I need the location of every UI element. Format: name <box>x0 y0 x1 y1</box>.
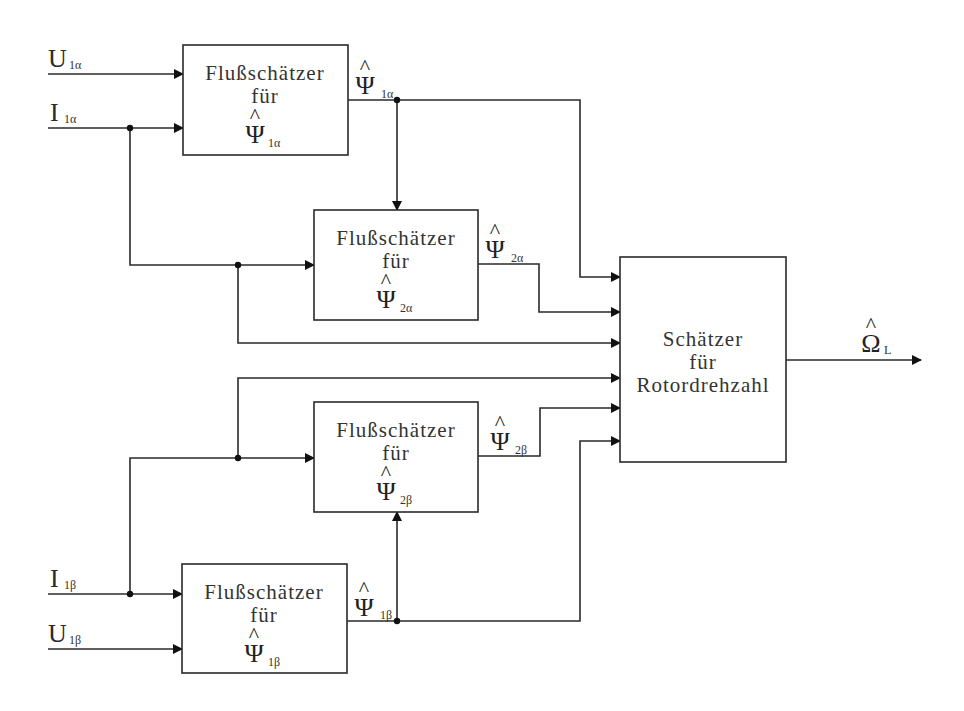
psi-symbol: Ψ <box>244 639 264 668</box>
junction-dot <box>127 125 133 131</box>
svg-text:1α: 1α <box>69 58 82 72</box>
junction-dot <box>127 591 133 597</box>
signal-label-psi1b: ^ Ψ 1β <box>354 576 392 622</box>
subscript: 1β <box>268 655 280 669</box>
psi-symbol: Ψ <box>245 120 265 149</box>
svg-text:Ψ: Ψ <box>490 427 510 456</box>
svg-text:2α: 2α <box>511 251 524 265</box>
svg-text:Ψ: Ψ <box>485 235 505 264</box>
input-label-i1a: I 1α <box>50 98 77 127</box>
svg-text:L: L <box>884 343 891 357</box>
subscript: 2β <box>400 493 412 507</box>
svg-text:1α: 1α <box>381 87 394 101</box>
signal-label-psi1a: ^ Ψ 1α <box>355 54 394 101</box>
junction-dot <box>394 97 400 103</box>
svg-text:U: U <box>48 44 67 73</box>
svg-text:Ψ: Ψ <box>354 593 374 622</box>
svg-text:U: U <box>48 619 67 648</box>
block-flux-estimator-2b[interactable]: Flußschätzer für ^ Ψ 2β <box>314 402 478 512</box>
block-flux-estimator-2a[interactable]: Flußschätzer für ^ Ψ 2α <box>314 210 478 320</box>
block-title: Flußschätzer <box>336 418 455 442</box>
block-title: Flußschätzer <box>204 580 323 604</box>
block-flux-estimator-1b[interactable]: Flußschätzer für ^ Ψ 1β <box>182 564 347 673</box>
junctions <box>127 97 400 624</box>
junction-dot <box>394 618 400 624</box>
input-label-i1b: I 1β <box>50 564 76 593</box>
subscript: 1α <box>268 136 281 150</box>
block-rotor-speed-estimator[interactable]: Schätzer für Rotordrehzahl <box>620 257 786 462</box>
wires <box>48 74 921 649</box>
block-diagram: Flußschätzer für ^ Ψ 1α Flußschätzer für… <box>0 0 964 711</box>
block-subtitle-2: Rotordrehzahl <box>636 373 769 397</box>
input-label-u1a: U 1α <box>48 44 82 73</box>
psi-symbol: Ψ <box>376 477 396 506</box>
junction-dot <box>235 455 241 461</box>
block-subtitle: für <box>689 350 717 374</box>
junction-dot <box>235 262 241 268</box>
signal-label-omega: ^ Ω L <box>861 312 891 358</box>
svg-text:1α: 1α <box>64 112 77 126</box>
svg-text:1β: 1β <box>380 608 392 622</box>
svg-text:Ψ: Ψ <box>355 71 375 100</box>
svg-text:I: I <box>50 98 59 127</box>
psi-symbol: Ψ <box>376 285 396 314</box>
svg-text:2β: 2β <box>515 443 527 457</box>
block-title: Schätzer <box>663 327 743 351</box>
signal-label-psi2a: ^ Ψ 2α <box>485 218 524 265</box>
signal-label-psi2b: ^ Ψ 2β <box>490 410 527 457</box>
svg-text:1β: 1β <box>69 633 81 647</box>
block-title: Flußschätzer <box>336 226 455 250</box>
wire-psi2a-to-speed <box>478 264 620 312</box>
input-label-u1b: U 1β <box>48 619 81 648</box>
svg-text:I: I <box>50 564 59 593</box>
block-flux-estimator-1a[interactable]: Flußschätzer für ^ Ψ 1α <box>183 45 348 155</box>
svg-text:1β: 1β <box>64 578 76 592</box>
subscript: 2α <box>400 301 413 315</box>
svg-text:Ω: Ω <box>861 329 880 358</box>
block-title: Flußschätzer <box>205 61 324 85</box>
